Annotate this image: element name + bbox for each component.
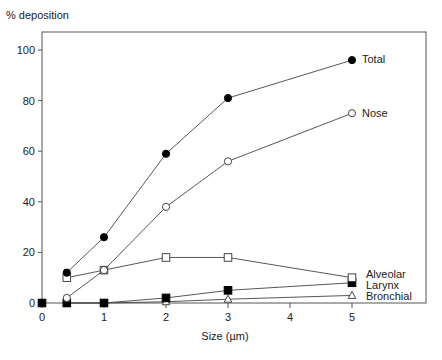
x-axis-label: Size (µm) xyxy=(0,330,442,342)
plot-border xyxy=(42,32,426,303)
y-axis-label: % deposition xyxy=(6,9,69,21)
line-alveolar xyxy=(67,257,352,277)
x-axis-label-text: Size (µm) xyxy=(201,330,248,342)
origin-marker xyxy=(38,299,46,307)
line-nose xyxy=(67,113,352,298)
plot-frame xyxy=(42,32,426,303)
y-tick-label: 40 xyxy=(23,196,35,208)
series-label-bronchial: Bronchial xyxy=(366,290,412,302)
x-tick-label: 2 xyxy=(163,311,169,323)
line-bronchial xyxy=(67,295,352,303)
total-marker xyxy=(224,94,231,101)
alveolar-marker xyxy=(162,254,170,262)
nose-marker xyxy=(224,158,231,165)
series-lines xyxy=(67,60,352,303)
larynx-marker xyxy=(224,287,232,295)
x-axis: 012345 xyxy=(39,303,355,323)
series-labels: TotalNoseAlveolarLarynxBronchial xyxy=(362,53,412,302)
x-tick-label: 4 xyxy=(287,311,293,323)
series-label-nose: Nose xyxy=(362,107,388,119)
x-tick-label: 3 xyxy=(225,311,231,323)
larynx-marker xyxy=(100,299,108,307)
y-tick-label: 20 xyxy=(23,246,35,258)
x-tick-label: 1 xyxy=(101,311,107,323)
x-tick-label: 0 xyxy=(39,311,45,323)
y-tick-label: 0 xyxy=(29,297,35,309)
total-marker xyxy=(162,150,169,157)
nose-marker xyxy=(162,203,169,210)
total-marker xyxy=(100,234,107,241)
y-axis: 020406080100 xyxy=(17,44,42,309)
nose-marker xyxy=(100,267,107,274)
series-label-total: Total xyxy=(362,53,385,65)
line-total xyxy=(67,60,352,273)
bronchial-marker xyxy=(348,291,356,298)
alveolar-marker xyxy=(348,274,356,282)
nose-marker xyxy=(63,294,70,301)
series-markers xyxy=(38,57,356,307)
y-tick-label: 60 xyxy=(23,145,35,157)
x-tick-label: 5 xyxy=(349,311,355,323)
alveolar-marker xyxy=(224,254,232,262)
y-tick-label: 80 xyxy=(23,95,35,107)
larynx-marker xyxy=(162,294,170,302)
total-marker xyxy=(348,57,355,64)
total-marker xyxy=(63,269,70,276)
deposition-chart: 020406080100 012345 TotalNoseAlveolarLar… xyxy=(0,0,442,360)
y-tick-label: 100 xyxy=(17,44,35,56)
nose-marker xyxy=(348,110,355,117)
